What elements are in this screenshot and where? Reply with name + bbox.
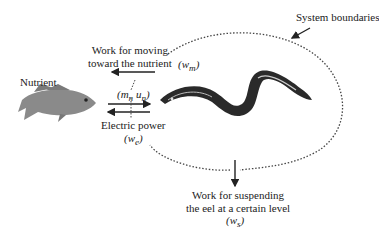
- nutrient-label: Nutrient: [20, 76, 57, 89]
- work-moving-label: Work for moving toward the nutrient: [88, 44, 172, 70]
- mass-flow-symbol: (mn un): [117, 88, 150, 105]
- work-suspending-label: Work for suspending the eel at a certain…: [186, 189, 290, 215]
- w-s-symbol: (ws): [226, 214, 244, 231]
- fish-nutrient-icon: [18, 84, 96, 122]
- w-m-symbol: (wm): [178, 58, 199, 75]
- w-e-symbol: (we): [124, 132, 143, 149]
- eel-icon: [160, 71, 312, 117]
- electric-power-label: Electric power: [101, 119, 165, 132]
- system-boundaries-arrow: [292, 28, 310, 38]
- system-boundaries-label: System boundaries: [296, 11, 379, 24]
